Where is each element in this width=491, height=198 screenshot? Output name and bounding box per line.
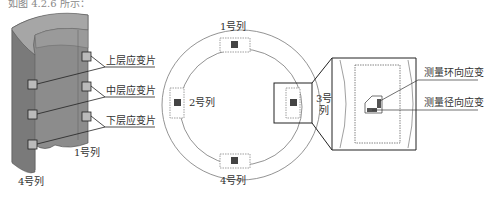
middle-strain-gauge-label: 中层应变片 <box>106 86 156 96</box>
cylinder-column-4-label: 4号列 <box>18 177 44 187</box>
gauge-col1-middle <box>82 82 91 91</box>
ring-column-4-label: 4号列 <box>220 176 246 186</box>
radial-strain-label: 测量径向应变 <box>424 98 484 108</box>
ring-column-2-label: 2号列 <box>189 98 215 108</box>
ring-column-1-label: 1号列 <box>220 22 246 32</box>
gauge-col4-upper <box>28 80 37 89</box>
cylinder-column-1-label: 1号列 <box>74 148 100 158</box>
gauge-col4-middle <box>28 110 37 119</box>
gauge-col4-lower <box>28 140 37 149</box>
ring-column-3-label-line2: 列 <box>319 106 329 116</box>
upper-strain-gauge-label: 上层应变片 <box>106 56 156 66</box>
gauge-col1-lower <box>82 112 91 121</box>
gauge-col1-upper <box>82 52 91 61</box>
ring-column-3-label-line1: 3号 <box>316 94 332 104</box>
lower-strain-gauge-label: 下层应变片 <box>106 116 156 126</box>
ring-plan-view <box>162 30 332 180</box>
hoop-strain-label: 测量环向应变 <box>424 68 484 78</box>
